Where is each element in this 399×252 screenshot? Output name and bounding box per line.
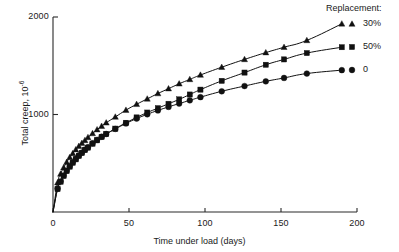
legend-label-0pct: 0 — [363, 64, 368, 74]
data-point — [219, 88, 225, 94]
data-point — [58, 178, 64, 184]
data-point — [304, 71, 310, 77]
legend-markers — [349, 21, 355, 73]
legend-label-30pct: 30% — [363, 18, 381, 28]
data-series — [53, 21, 345, 212]
data-point — [176, 101, 182, 107]
y-axis-title-text: Total creep, 10 — [20, 86, 30, 145]
data-point — [155, 108, 161, 114]
x-tick-label: 100 — [191, 218, 219, 228]
data-point — [166, 104, 172, 110]
data-point — [281, 75, 287, 81]
data-point — [187, 97, 193, 103]
data-point — [263, 62, 268, 67]
x-tick-label: 150 — [267, 218, 295, 228]
data-point — [144, 96, 150, 102]
data-point — [339, 45, 344, 50]
y-axis-title-wrapper: Total creep, 10-6 — [14, 38, 32, 188]
legend-label-50pct: 50% — [363, 41, 381, 51]
data-point — [155, 90, 161, 96]
data-point — [85, 144, 91, 150]
data-point — [103, 120, 109, 126]
data-point — [103, 131, 109, 137]
data-point — [55, 186, 61, 192]
axes — [53, 17, 357, 212]
chart-plot-area — [0, 0, 399, 252]
data-point — [281, 57, 286, 62]
data-point — [304, 50, 309, 55]
data-point — [144, 111, 150, 117]
data-point — [112, 114, 118, 120]
data-point — [123, 107, 129, 113]
legend-marker-square — [349, 44, 354, 49]
data-point — [112, 126, 118, 132]
data-point — [339, 67, 345, 73]
y-axis-title: Total creep, 10-6 — [20, 81, 30, 146]
data-point — [198, 94, 204, 100]
legend-title: Replacement: — [326, 3, 382, 13]
data-point — [263, 78, 269, 84]
x-tick-label: 200 — [343, 218, 371, 228]
creep-chart-figure: 0 50 100 150 200 1000 2000 Time under lo… — [0, 0, 399, 252]
data-point — [134, 101, 140, 107]
x-axis-title: Time under load (days) — [0, 236, 399, 246]
data-point — [123, 121, 129, 127]
y-tick-label: 2000 — [11, 11, 49, 21]
series-1 — [53, 21, 345, 212]
data-point — [198, 87, 203, 92]
x-tick-label: 0 — [39, 218, 67, 228]
data-point — [242, 83, 248, 89]
x-tick-label: 50 — [115, 218, 143, 228]
data-point — [339, 21, 345, 27]
data-point — [134, 116, 140, 122]
data-point — [187, 92, 192, 97]
y-axis-title-exponent: -6 — [18, 81, 25, 87]
data-point — [242, 70, 247, 75]
data-point — [219, 78, 224, 83]
legend-marker-triangle — [349, 21, 355, 27]
legend-marker-circle — [349, 67, 355, 73]
